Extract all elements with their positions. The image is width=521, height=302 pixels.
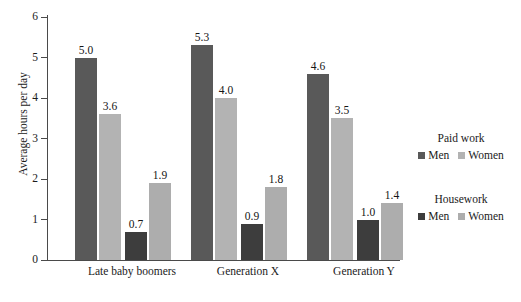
- y-tick-label-5: 5: [20, 52, 38, 63]
- bar-paidwork-men-g0[interactable]: 5.0: [75, 58, 97, 261]
- bar-housework-women-g2[interactable]: 1.4: [381, 203, 403, 260]
- plot-area: 5.0 3.6 0.7 1.9 5.3 4.0 0.9 1.: [47, 17, 400, 260]
- y-tick-label-1: 1: [20, 214, 38, 225]
- bar-paidwork-women-g2[interactable]: 3.5: [331, 118, 353, 260]
- bar-value-label: 5.0: [69, 44, 103, 56]
- bar-value-label: 3.5: [325, 104, 359, 116]
- y-tick-label-4: 4: [20, 92, 38, 103]
- bar-housework-men-g0[interactable]: 0.7: [125, 232, 147, 260]
- legend-housework: Housework Men Women: [403, 192, 519, 223]
- legend-swatch-icon-housework-men: [418, 213, 425, 220]
- legend-paid-work-title: Paid work: [403, 131, 519, 145]
- y-tick-label-2: 2: [20, 173, 38, 184]
- bar-paidwork-women-g0[interactable]: 3.6: [99, 114, 121, 260]
- legend-item-housework-women[interactable]: Women: [458, 210, 503, 223]
- bar-value-label: 0.9: [235, 210, 269, 222]
- y-tick-label-0: 0: [20, 254, 38, 265]
- x-axis-line: [47, 260, 400, 261]
- legend-paid-work-row: Men Women: [403, 149, 519, 162]
- bar-chart: Average hours per day 6 5 4 3 2 1 0 5.0 …: [0, 0, 521, 302]
- bar-group-generation-y: 4.6 3.5 1.0 1.4: [307, 17, 415, 260]
- bar-value-label: 3.6: [93, 100, 127, 112]
- legend-item-housework-men[interactable]: Men: [418, 210, 449, 223]
- bar-housework-men-g1[interactable]: 0.9: [241, 224, 263, 260]
- bar-housework-women-g0[interactable]: 1.9: [149, 183, 171, 260]
- legend-label-paid-men: Men: [428, 149, 449, 162]
- bar-paidwork-men-g2[interactable]: 4.6: [307, 74, 329, 260]
- legend-item-paid-men[interactable]: Men: [418, 149, 449, 162]
- bar-value-label: 1.0: [351, 206, 385, 218]
- y-tick-mark-0: [41, 260, 48, 261]
- legend-housework-row: Men Women: [403, 210, 519, 223]
- legend-swatch-icon-paid-men: [418, 152, 425, 159]
- y-tick-label-6: 6: [20, 11, 38, 22]
- y-tick-label-3: 3: [20, 133, 38, 144]
- legend-paid-work: Paid work Men Women: [403, 131, 519, 162]
- legend-label-housework-men: Men: [428, 210, 449, 223]
- legend-swatch-icon-housework-women: [458, 213, 465, 220]
- bar-housework-women-g1[interactable]: 1.8: [265, 187, 287, 260]
- bar-value-label: 4.0: [209, 84, 243, 96]
- legend-swatch-icon-paid-women: [458, 152, 465, 159]
- bar-value-label: 5.3: [185, 31, 219, 43]
- bar-value-label: 1.9: [143, 169, 177, 181]
- bar-paidwork-women-g1[interactable]: 4.0: [215, 98, 237, 260]
- bar-value-label: 4.6: [301, 60, 335, 72]
- bar-group-late-baby-boomers: 5.0 3.6 0.7 1.9: [75, 17, 183, 260]
- bar-housework-men-g2[interactable]: 1.0: [357, 220, 379, 261]
- legend-item-paid-women[interactable]: Women: [458, 149, 503, 162]
- bar-group-generation-x: 5.3 4.0 0.9 1.8: [191, 17, 299, 260]
- legend-label-housework-women: Women: [468, 210, 503, 223]
- bar-value-label: 0.7: [119, 218, 153, 230]
- legend-label-paid-women: Women: [468, 149, 503, 162]
- bar-value-label: 1.8: [259, 173, 293, 185]
- x-axis-label-generation-y: Generation Y: [293, 265, 435, 277]
- legend-housework-title: Housework: [403, 192, 519, 206]
- bar-paidwork-men-g1[interactable]: 5.3: [191, 45, 213, 260]
